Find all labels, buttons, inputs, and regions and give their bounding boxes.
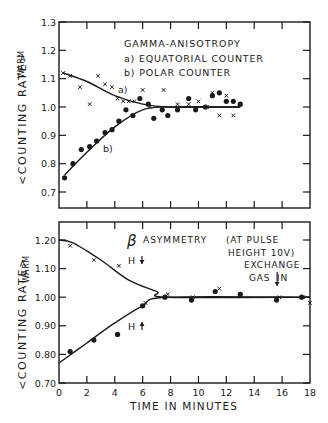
curve-label-b: b) bbox=[103, 143, 113, 154]
data-point-x bbox=[117, 264, 121, 268]
data-point-dot bbox=[203, 104, 208, 109]
data-point-dot bbox=[231, 99, 236, 104]
data-point-dot bbox=[140, 303, 145, 308]
plot-frame bbox=[59, 222, 310, 383]
data-point-x bbox=[92, 258, 96, 262]
data-point-dot bbox=[137, 96, 142, 101]
exchange-gas-line1: EXCHANGE bbox=[244, 260, 300, 270]
plot-frame bbox=[59, 22, 310, 208]
x-tick-label: 6 bbox=[140, 387, 146, 398]
y-tick-label: 1.2 bbox=[41, 45, 56, 56]
y-tick-label: 0.90 bbox=[35, 320, 56, 331]
x-tick-label: 8 bbox=[168, 387, 174, 398]
y-tick-label: 0.7 bbox=[41, 187, 56, 198]
y-tick-label: 1.0 bbox=[41, 102, 56, 113]
data-point-dot bbox=[175, 107, 180, 112]
curve-label-a: a) bbox=[118, 84, 128, 95]
pulse-note-line2: HEIGHT 10V) bbox=[228, 248, 295, 258]
beta-symbol: β bbox=[126, 232, 137, 250]
data-point-dot bbox=[94, 138, 99, 143]
y-tick-label: 0.9 bbox=[41, 130, 56, 141]
data-point-dot bbox=[193, 107, 198, 112]
data-point-dot bbox=[224, 99, 229, 104]
data-point-dot bbox=[160, 107, 165, 112]
y-tick-label: 0.70 bbox=[35, 378, 56, 389]
data-point-x bbox=[68, 244, 72, 248]
data-point-x bbox=[78, 85, 82, 89]
y-tick-label: 1.10 bbox=[35, 263, 56, 274]
data-point-dot bbox=[189, 297, 194, 302]
data-point-x bbox=[141, 88, 145, 92]
svg-text:WARM: WARM bbox=[17, 50, 26, 78]
data-point-x bbox=[187, 102, 191, 106]
data-point-x bbox=[162, 88, 166, 92]
data-point-x bbox=[218, 287, 222, 291]
x-axis-label: TIME IN MINUTES bbox=[129, 400, 238, 412]
fit-curve bbox=[59, 297, 310, 363]
y-tick-label: 1.3 bbox=[41, 17, 56, 28]
x-tick-label: 14 bbox=[248, 387, 260, 398]
data-point-dot bbox=[213, 289, 218, 294]
data-point-x bbox=[121, 100, 125, 104]
data-point-x bbox=[103, 83, 107, 87]
h-up-label: H bbox=[128, 321, 135, 332]
data-point-dot bbox=[123, 107, 128, 112]
legend-a-equatorial: a) EQUATORIAL COUNTER bbox=[124, 53, 264, 64]
data-point-x bbox=[88, 102, 92, 106]
data-point-dot bbox=[130, 113, 135, 118]
data-point-dot bbox=[109, 127, 114, 132]
bottom-ylabel: <COUNTING RATE> WARM bbox=[16, 255, 31, 390]
x-tick-label: 2 bbox=[84, 387, 90, 398]
fit-curve bbox=[63, 73, 240, 107]
data-point-dot bbox=[102, 130, 107, 135]
top-ylabel: <COUNTING RATE> WARM bbox=[16, 50, 29, 185]
h-down-arrow-icon-head bbox=[140, 260, 145, 264]
data-point-x bbox=[96, 74, 100, 78]
data-point-x bbox=[218, 114, 222, 118]
data-point-dot bbox=[238, 102, 243, 107]
data-point-dot bbox=[91, 338, 96, 343]
data-point-dot bbox=[115, 332, 120, 337]
pulse-note-line1: (AT PULSE bbox=[226, 235, 279, 245]
y-tick-label: 1.00 bbox=[35, 292, 56, 303]
svg-text:WARM: WARM bbox=[22, 255, 31, 283]
y-tick-label: 1.20 bbox=[35, 235, 56, 246]
h-up-arrow-icon-head bbox=[140, 322, 145, 326]
data-point-dot bbox=[68, 349, 73, 354]
x-tick-label: 4 bbox=[112, 387, 118, 398]
x-tick-label: 18 bbox=[304, 387, 316, 398]
exchange-gas-line2b: IN bbox=[277, 273, 288, 283]
data-point-dot bbox=[238, 292, 243, 297]
data-point-x bbox=[225, 94, 229, 98]
data-point-dot bbox=[62, 175, 67, 180]
data-point-dot bbox=[79, 147, 84, 152]
data-point-x bbox=[176, 102, 180, 106]
data-point-dot bbox=[274, 297, 279, 302]
data-point-dot bbox=[116, 119, 121, 124]
bottom-panel-title: ASYMMETRY bbox=[143, 235, 207, 245]
data-point-dot bbox=[186, 96, 191, 101]
x-tick-label: 16 bbox=[276, 387, 288, 398]
data-point-dot bbox=[217, 90, 222, 95]
y-tick-label: 0.8 bbox=[41, 158, 56, 169]
y-tick-label: 1.1 bbox=[41, 73, 56, 84]
h-down-label: H bbox=[128, 255, 135, 266]
data-point-x bbox=[232, 114, 236, 118]
exchange-gas-line2a: GAS bbox=[249, 273, 270, 283]
exchange-gas-arrow-icon-head bbox=[275, 282, 280, 286]
legend-b-polar: b) POLAR COUNTER bbox=[124, 67, 231, 78]
data-point-dot bbox=[162, 295, 167, 300]
chart-figure: 1.31.21.11.00.90.80.7 1.201.101.000.900.… bbox=[0, 0, 328, 423]
data-point-dot bbox=[299, 295, 304, 300]
x-tick-label: 12 bbox=[220, 387, 232, 398]
x-tick-label: 10 bbox=[192, 387, 204, 398]
data-point-dot bbox=[146, 102, 151, 107]
data-point-dot bbox=[210, 93, 215, 98]
data-point-dot bbox=[165, 113, 170, 118]
top-panel-title: GAMMA-ANISOTROPY bbox=[124, 38, 241, 49]
data-point-dot bbox=[70, 161, 75, 166]
data-point-x bbox=[197, 100, 201, 104]
y-tick-label: 0.80 bbox=[35, 349, 56, 360]
data-point-x bbox=[110, 85, 114, 89]
data-point-dot bbox=[87, 144, 92, 149]
